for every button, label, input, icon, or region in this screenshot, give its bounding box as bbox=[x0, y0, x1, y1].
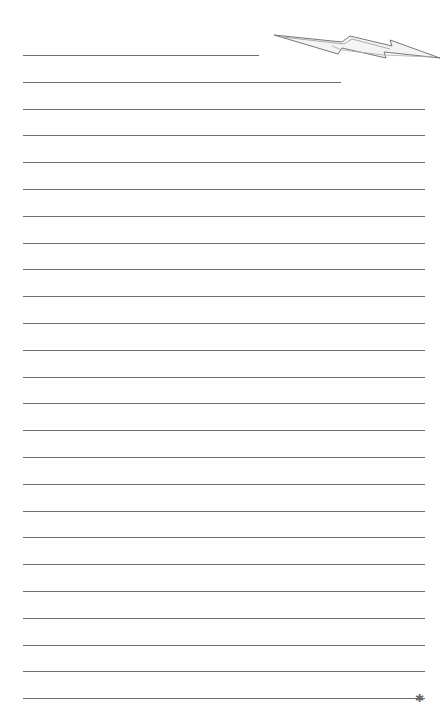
ruled-line bbox=[23, 323, 425, 324]
ruled-line bbox=[23, 591, 425, 592]
ruled-line bbox=[23, 296, 425, 297]
ruled-line bbox=[23, 189, 425, 190]
ruled-line bbox=[23, 511, 425, 512]
ruled-line bbox=[23, 618, 425, 619]
lightning-bolt-icon bbox=[272, 32, 442, 62]
ruled-line bbox=[23, 537, 425, 538]
ruled-line bbox=[23, 135, 425, 136]
ruled-line bbox=[23, 403, 425, 404]
ruled-line bbox=[23, 671, 425, 672]
ruled-line bbox=[23, 269, 425, 270]
ruled-line bbox=[23, 350, 425, 351]
ruled-line bbox=[23, 55, 259, 56]
star-icon: ✱ bbox=[415, 692, 424, 704]
ruled-line bbox=[23, 430, 425, 431]
ruled-line bbox=[23, 109, 425, 110]
ruled-line bbox=[23, 243, 425, 244]
ruled-line bbox=[23, 457, 425, 458]
ruled-line bbox=[23, 698, 425, 699]
ruled-line bbox=[23, 564, 425, 565]
ruled-line bbox=[23, 162, 425, 163]
ruled-line bbox=[23, 216, 425, 217]
ruled-line bbox=[23, 82, 341, 83]
ruled-line bbox=[23, 377, 425, 378]
ruled-line bbox=[23, 484, 425, 485]
ruled-line bbox=[23, 645, 425, 646]
